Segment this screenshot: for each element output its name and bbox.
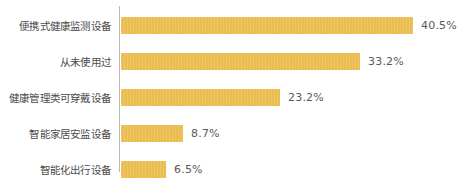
bar-row: 便携式健康监测设备 40.5% (0, 8, 459, 44)
bar-value-label: 6.5% (174, 161, 203, 178)
bar-value-label: 8.7% (191, 125, 220, 142)
bar[interactable] (121, 161, 166, 178)
category-label: 从未使用过 (0, 44, 111, 80)
category-label: 健康管理类可穿戴设备 (0, 80, 111, 116)
bar-value-label: 23.2% (288, 89, 324, 106)
bar[interactable] (121, 17, 413, 34)
category-label: 智能家居安监设备 (0, 116, 111, 152)
bar-row: 从未使用过 33.2% (0, 44, 459, 80)
category-label: 智能化出行设备 (0, 152, 111, 188)
bar[interactable] (121, 53, 360, 70)
bar-row: 健康管理类可穿戴设备 23.2% (0, 80, 459, 116)
bar-row: 智能家居安监设备 8.7% (0, 116, 459, 152)
plot-area: 便携式健康监测设备 40.5% 从未使用过 33.2% 健康管理类可穿戴设备 2… (0, 0, 459, 188)
bar[interactable] (121, 125, 183, 142)
bar[interactable] (121, 89, 280, 106)
bar-row: 智能化出行设备 6.5% (0, 152, 459, 188)
category-label: 便携式健康监测设备 (0, 8, 111, 44)
bar-value-label: 33.2% (368, 53, 404, 70)
bar-value-label: 40.5% (421, 17, 457, 34)
horizontal-bar-chart: 便携式健康监测设备 40.5% 从未使用过 33.2% 健康管理类可穿戴设备 2… (0, 0, 459, 188)
